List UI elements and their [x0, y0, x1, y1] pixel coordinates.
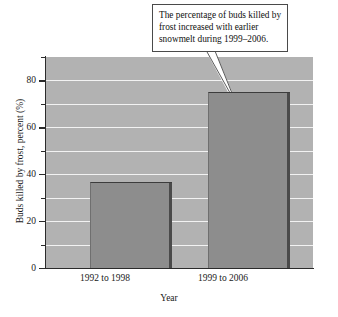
- bar-1999-to-2006: [208, 92, 290, 268]
- y-tick-80: [39, 80, 46, 81]
- x-axis-title: Year: [0, 293, 338, 303]
- y-tick-40: [39, 174, 46, 175]
- gridline-80: [46, 80, 313, 81]
- x-tick-label-1992-to-1998: 1992 to 1998: [45, 273, 165, 284]
- bar-1999-to-2006-shadow: [287, 93, 290, 268]
- callout-leader-line: [206, 51, 246, 92]
- y-tick-minor-50: [41, 151, 46, 152]
- bar-chart-figure: 80 60 40 20 0 1992 to 1998 1999 to 2006 …: [0, 0, 338, 317]
- y-tick-60: [39, 127, 46, 128]
- y-tick-minor-70: [41, 104, 46, 105]
- y-tick-20: [39, 221, 46, 222]
- y-tick-label-0: 0: [6, 264, 36, 274]
- y-axis-title: Buds killed by frost, percent (%): [15, 81, 25, 241]
- y-tick-minor-30: [41, 198, 46, 199]
- y-tick-minor-10: [41, 245, 46, 246]
- x-tick-label-1999-to-2006: 1999 to 2006: [163, 273, 283, 284]
- callout-annotation-box: The percentage of buds killed by frost i…: [152, 4, 288, 52]
- bar-1992-to-1998-shadow: [169, 183, 172, 268]
- x-axis-line: [45, 268, 314, 269]
- y-tick-minor-90: [41, 57, 46, 58]
- plot-area: [46, 57, 313, 268]
- y-axis-line: [45, 56, 46, 269]
- y-tick-0: [39, 268, 46, 269]
- bar-1992-to-1998: [90, 182, 172, 268]
